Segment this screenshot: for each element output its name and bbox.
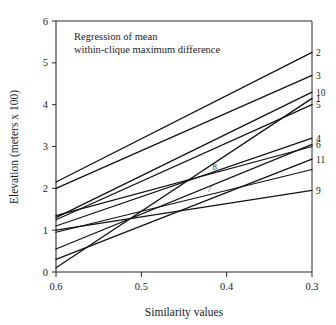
series-label-2: 2 <box>316 48 321 58</box>
y-tick-label-3: 3 <box>43 141 48 152</box>
x-axis-title: Similarity values <box>145 306 224 319</box>
y-tick-label-0: 0 <box>43 267 48 278</box>
series-label-7: 7 <box>207 184 212 194</box>
x-tick-label-0.3: 0.3 <box>305 281 318 292</box>
y-tick-label-2: 2 <box>43 183 48 194</box>
y-axis-title: Elevation (meters x 100) <box>8 90 21 204</box>
annotation-line-1: Regression of mean <box>74 31 158 42</box>
series-label-11: 11 <box>316 155 325 165</box>
y-tick-label-5: 5 <box>43 57 48 68</box>
regression-line-chart: 0123456 0.60.50.40.3 2310154611987 Regre… <box>0 0 336 325</box>
x-tick-label-0.5: 0.5 <box>135 281 148 292</box>
annotation-line-2: within-clique maximum difference <box>74 44 221 55</box>
x-tick-label-0.4: 0.4 <box>220 281 234 292</box>
series-label-5: 5 <box>316 100 321 110</box>
series-label-6: 6 <box>316 140 321 150</box>
y-tick-label-4: 4 <box>43 99 49 110</box>
series-label-9: 9 <box>316 186 321 196</box>
series-label-8: 8 <box>212 162 217 172</box>
y-tick-label-6: 6 <box>43 16 48 27</box>
chart-canvas: 0123456 0.60.50.40.3 2310154611987 Regre… <box>0 0 336 325</box>
y-tick-label-1: 1 <box>43 225 48 236</box>
series-label-3: 3 <box>316 71 321 81</box>
x-tick-label-0.6: 0.6 <box>49 281 62 292</box>
